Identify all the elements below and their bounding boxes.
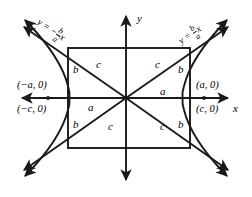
segment-label-a-lower-left: a	[88, 102, 94, 113]
segment-label-c-lower-left: c	[108, 121, 113, 132]
vertex-label-right: (a, 0)	[196, 80, 219, 91]
focus-point-left	[46, 96, 50, 100]
focus-point-right	[202, 96, 206, 100]
vertex-label-left: (−a, 0)	[17, 80, 47, 91]
segment-label-b-upper-left: b	[73, 64, 79, 75]
segment-label-b-upper-right: b	[178, 64, 184, 75]
y-axis-label: y	[137, 13, 142, 24]
focus-label-left: (−c, 0)	[17, 104, 46, 115]
focus-label-right: (c, 0)	[196, 104, 218, 115]
segment-label-c-upper-right: c	[155, 59, 160, 70]
x-axis-label: x	[233, 103, 238, 114]
segment-label-b-lower-left: b	[73, 119, 79, 130]
hyperbola-figure: y x y = −bax y = bax (−a, 0) (−c, 0) (a,…	[0, 0, 252, 197]
segment-label-a-upper-right: a	[160, 86, 166, 97]
segment-label-c-upper-left: c	[96, 59, 101, 70]
segment-label-b-lower-right: b	[178, 119, 184, 130]
segment-label-c-lower-right: c	[160, 121, 165, 132]
